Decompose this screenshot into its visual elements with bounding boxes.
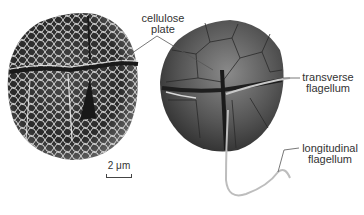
label-cellulose-plate: cellulose plate — [136, 13, 190, 35]
dinoflagellate-illustration — [160, 20, 290, 195]
label-longitudinal-flagellum: longitudinal flagellum — [298, 143, 362, 165]
scale-bar — [106, 174, 132, 178]
label-transverse-flagellum: transverse flagellum — [301, 72, 355, 94]
sem-micrograph — [8, 13, 138, 160]
scale-bar-label: 2 μm — [106, 160, 132, 171]
